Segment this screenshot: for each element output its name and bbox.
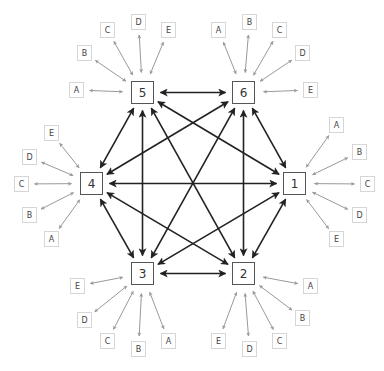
- leaf-5-C: C: [100, 22, 115, 38]
- edge-4-5: [100, 108, 133, 168]
- leaf-3-A: A: [161, 333, 176, 349]
- leaf-1-D: D: [352, 207, 367, 223]
- leaf-edge-3-B: [139, 293, 141, 336]
- leaf-3-C: C: [100, 333, 115, 349]
- leaf-edge-6-A: [223, 42, 236, 74]
- leaf-6-D: D: [295, 45, 310, 61]
- leaf-3-D: D: [77, 312, 92, 328]
- leaf-2-D: D: [242, 341, 257, 357]
- edge-1-6: [252, 108, 285, 168]
- leaf-2-C: C: [272, 333, 287, 349]
- leaf-edge-1-A: [306, 136, 329, 168]
- leaf-1-A: A: [329, 117, 344, 133]
- leaf-edge-1-E: [307, 199, 329, 228]
- leaf-edge-2-B: [259, 286, 292, 311]
- leaf-edge-6-C: [253, 41, 273, 75]
- network-diagram: 123456 ABCDEABCDEABCDEEDCBAEDCBAABCDE: [0, 0, 384, 371]
- leaf-2-E: E: [211, 333, 226, 349]
- leaf-edge-4-A: [59, 200, 80, 229]
- node-4: 4: [80, 172, 103, 195]
- leaf-5-D: D: [131, 14, 146, 30]
- node-2: 2: [232, 262, 255, 285]
- leaf-4-B: B: [22, 207, 37, 223]
- leaf-4-C: C: [14, 176, 29, 192]
- leaf-5-E: E: [161, 22, 176, 38]
- edge-3-4: [100, 199, 133, 258]
- leaf-edge-5-E: [150, 42, 163, 74]
- edge-4-6: [107, 102, 228, 175]
- edge-layer: [0, 0, 384, 371]
- leaf-2-B: B: [295, 310, 310, 326]
- edge-1-2: [252, 199, 285, 258]
- leaf-edge-5-C: [114, 41, 133, 75]
- leaf-edge-3-D: [95, 286, 127, 312]
- node-6: 6: [232, 81, 255, 104]
- leaf-edge-3-E: [90, 277, 123, 283]
- leaf-edge-2-E: [223, 292, 237, 329]
- leaf-edge-4-E: [60, 143, 80, 168]
- leaf-4-E: E: [44, 125, 59, 141]
- node-1: 1: [283, 172, 306, 195]
- leaf-edge-6-B: [245, 35, 248, 73]
- leaf-edge-1-D: [312, 192, 347, 209]
- leaf-edge-4-B: [41, 193, 74, 210]
- leaf-edge-2-D: [245, 293, 248, 336]
- leaf-4-D: D: [22, 149, 37, 165]
- leaf-2-A: A: [303, 278, 318, 294]
- leaf-3-B: B: [131, 341, 146, 357]
- leaf-edge-6-D: [260, 60, 292, 81]
- leaf-4-A: A: [44, 231, 59, 247]
- leaf-edge-6-E: [263, 90, 297, 91]
- leaf-edge-3-A: [150, 292, 164, 329]
- leaf-edge-5-D: [139, 35, 141, 73]
- leaf-edge-4-D: [41, 162, 73, 176]
- leaf-5-B: B: [77, 45, 92, 61]
- leaf-edge-2-C: [253, 291, 273, 329]
- leaf-1-B: B: [352, 144, 367, 160]
- leaf-edge-2-A: [263, 277, 298, 283]
- leaf-edge-5-A: [89, 90, 122, 91]
- leaf-edge-5-B: [95, 60, 126, 81]
- leaf-edge-1-B: [312, 158, 347, 175]
- leaf-6-B: B: [242, 14, 257, 30]
- leaf-edge-3-C: [113, 291, 133, 329]
- leaf-5-A: A: [69, 82, 84, 98]
- node-5: 5: [131, 81, 154, 104]
- node-3: 3: [131, 262, 154, 285]
- leaf-6-A: A: [211, 22, 226, 38]
- leaf-1-E: E: [329, 231, 344, 247]
- leaf-1-C: C: [360, 176, 375, 192]
- leaf-6-E: E: [303, 82, 318, 98]
- leaf-6-C: C: [272, 22, 287, 38]
- leaf-3-E: E: [70, 278, 85, 294]
